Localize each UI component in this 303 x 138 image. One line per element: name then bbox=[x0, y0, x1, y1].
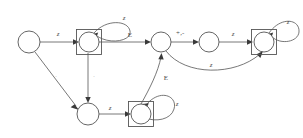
arrowhead-q6-q7 bbox=[247, 39, 253, 44]
fsm-diagram-canvas: z z E . . z z E +,- z z z bbox=[0, 0, 303, 138]
edge-label-q6-q7: z bbox=[231, 30, 235, 38]
edge-q3-q7 bbox=[166, 51, 260, 70]
edge-label-q5-q3: E bbox=[164, 74, 168, 82]
edge-label-q1-q3: E bbox=[128, 31, 132, 39]
edge-label-q5-self: z bbox=[175, 100, 179, 108]
edge-label-q7-self: z bbox=[286, 18, 290, 26]
arrowhead-q5-q3 bbox=[158, 53, 163, 60]
edge-label-q0-q1: z bbox=[56, 30, 60, 38]
edge-q1-self bbox=[94, 23, 130, 41]
edge-label-q3-q7: z bbox=[209, 61, 213, 69]
state-q0-circle bbox=[18, 31, 40, 53]
arrowhead-q4-q5 bbox=[125, 111, 131, 116]
state-q3[interactable] bbox=[151, 32, 171, 52]
state-q3-circle bbox=[151, 32, 171, 52]
state-q5[interactable] bbox=[129, 102, 154, 127]
arrowhead-q1-q4 bbox=[85, 97, 90, 103]
state-q5-circle bbox=[131, 104, 151, 124]
state-q0[interactable] bbox=[18, 31, 40, 53]
state-q1-circle bbox=[79, 32, 99, 52]
edge-q5-q3 bbox=[141, 57, 161, 104]
arrowhead-q3-q6 bbox=[193, 39, 199, 44]
state-q7-circle bbox=[254, 32, 274, 52]
state-q4[interactable] bbox=[77, 103, 99, 125]
edge-label-q0-q4: . bbox=[55, 72, 57, 78]
fsm-diagram-svg: z z E . . z z E +,- z z z bbox=[0, 0, 303, 138]
arrowhead-q1-q3 bbox=[145, 39, 151, 44]
edge-label-q1-q4: . bbox=[93, 72, 95, 78]
state-q4-circle bbox=[77, 103, 99, 125]
state-q6[interactable] bbox=[199, 32, 219, 52]
edge-q0-q4 bbox=[35, 52, 76, 106]
state-q6-circle bbox=[199, 32, 219, 52]
edge-label-q4-q5: z bbox=[108, 104, 112, 112]
arrowhead-q0-q1 bbox=[73, 39, 79, 44]
edge-label-q1-self: z bbox=[122, 14, 126, 22]
edge-label-q3-q6: +,- bbox=[176, 29, 185, 37]
